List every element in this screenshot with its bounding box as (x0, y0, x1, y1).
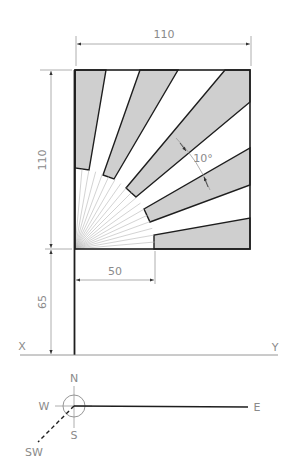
dimension-label-angle: 10° (193, 152, 213, 165)
dimension-flag-height: 110 (36, 70, 72, 249)
compass-southwest-label: SW (25, 446, 43, 459)
dimension-label-radius: 50 (108, 265, 122, 278)
dimension-inner-radius: 50 (76, 251, 155, 284)
compass-north-label: N (70, 372, 78, 385)
dimension-pole-below: 65 (36, 250, 51, 354)
compass-south-label: S (71, 429, 78, 442)
flag (75, 70, 250, 249)
label-y: Y (271, 341, 279, 354)
label-x: X (18, 340, 26, 353)
compass-east-label: E (254, 401, 261, 414)
xy-reference-line: X Y (18, 340, 278, 355)
dimension-label-pole: 65 (36, 295, 49, 309)
compass-west-label: W (39, 400, 50, 413)
dimension-label-height: 110 (36, 150, 49, 171)
flag-plan-line (74, 406, 248, 407)
dimension-flag-width: 110 (76, 28, 251, 66)
dimension-label-width: 110 (154, 28, 175, 41)
technical-drawing: 110 110 65 50 10° X Y N S W (0, 0, 295, 472)
compass-plan-view: N S W E SW (25, 372, 260, 459)
